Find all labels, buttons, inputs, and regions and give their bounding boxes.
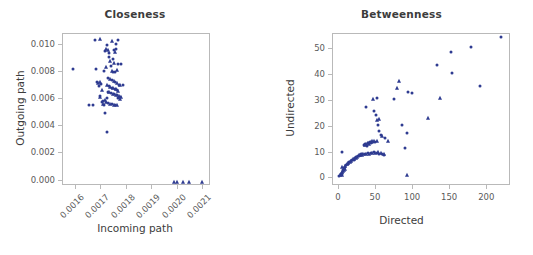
x-tick	[486, 185, 487, 189]
data-point	[98, 94, 101, 97]
data-point	[382, 154, 385, 157]
y-axis-label-betweenness: Undirected	[284, 68, 296, 148]
data-point	[365, 105, 368, 108]
data-point	[115, 103, 119, 107]
data-point	[103, 104, 106, 107]
data-point	[100, 88, 104, 92]
y-tick-label: 50	[314, 43, 325, 53]
data-point	[500, 36, 503, 39]
data-point	[71, 67, 74, 70]
data-point	[405, 131, 408, 134]
y-tick-label: 0.008	[31, 66, 55, 76]
x-axis-label-betweenness: Directed	[270, 214, 533, 226]
data-point	[386, 139, 390, 143]
data-point	[411, 92, 414, 95]
plot-area-betweenness: 01020304050050100150200	[332, 33, 510, 185]
y-tick-label: 20	[314, 121, 325, 131]
x-tick	[151, 185, 152, 189]
x-axis-label-closeness: Incoming path	[0, 222, 270, 234]
data-point	[397, 79, 401, 83]
y-tick	[58, 71, 62, 72]
data-point	[99, 83, 102, 86]
x-tick	[177, 185, 178, 189]
x-tick	[126, 185, 127, 189]
data-point	[175, 180, 179, 184]
y-tick	[328, 48, 332, 49]
data-point	[375, 139, 379, 143]
panel-closeness: Closeness 0.0000.0020.0040.0060.0080.010…	[0, 0, 270, 255]
x-tick	[449, 185, 450, 189]
data-point	[106, 47, 110, 51]
data-point	[116, 38, 119, 41]
plot-frame	[332, 33, 510, 185]
data-point	[121, 83, 124, 86]
data-point	[87, 104, 90, 107]
y-tick-label: 0.000	[31, 175, 55, 185]
data-point	[107, 52, 110, 55]
y-tick	[328, 74, 332, 75]
data-point	[187, 180, 191, 184]
data-point	[405, 172, 409, 176]
x-tick-label: 0.0018	[109, 192, 137, 220]
y-tick-label: 0.010	[31, 39, 55, 49]
x-tick	[202, 185, 203, 189]
y-tick-label: 10	[314, 147, 325, 157]
y-tick	[328, 100, 332, 101]
data-point	[451, 72, 454, 75]
data-point	[340, 151, 343, 154]
y-tick-label: 40	[314, 69, 325, 79]
panel-betweenness: Betweenness 01020304050050100150200 Dire…	[270, 0, 533, 255]
data-point	[118, 96, 122, 100]
data-point	[479, 84, 482, 87]
y-tick	[58, 44, 62, 45]
data-point	[120, 63, 123, 66]
data-point	[438, 96, 442, 100]
data-point	[393, 98, 396, 101]
data-point	[93, 38, 96, 41]
data-point	[94, 68, 97, 71]
y-tick	[328, 177, 332, 178]
data-point	[373, 109, 376, 112]
data-point	[92, 104, 95, 107]
data-point	[403, 146, 406, 149]
data-point	[98, 37, 102, 41]
data-point	[104, 112, 107, 115]
x-tick-label: 0.0021	[185, 192, 213, 220]
y-tick-label: 0.002	[31, 147, 55, 157]
data-point	[110, 39, 114, 43]
data-point	[426, 115, 430, 119]
chart-title-closeness: Closeness	[0, 8, 270, 20]
y-tick	[328, 152, 332, 153]
x-tick-label: 0	[335, 192, 340, 202]
data-point	[407, 90, 410, 93]
scatter-plot-figure: Closeness 0.0000.0020.0040.0060.0080.010…	[0, 0, 533, 255]
x-tick	[338, 185, 339, 189]
data-point	[400, 123, 403, 126]
x-tick	[412, 185, 413, 189]
y-tick	[58, 152, 62, 153]
y-tick	[328, 126, 332, 127]
data-point	[114, 42, 117, 45]
x-tick	[75, 185, 76, 189]
x-tick-label: 100	[404, 192, 420, 202]
data-point	[112, 61, 116, 65]
data-point	[449, 51, 452, 54]
plot-area-closeness: 0.0000.0020.0040.0060.0080.0100.00160.00…	[62, 33, 210, 185]
x-tick-label: 0.0017	[83, 192, 111, 220]
y-tick-label: 0.004	[31, 120, 55, 130]
x-tick-label: 200	[478, 192, 494, 202]
data-point	[115, 48, 118, 51]
x-tick-label: 150	[441, 192, 457, 202]
y-tick-label: 0.006	[31, 93, 55, 103]
data-point	[106, 130, 109, 133]
data-point	[436, 64, 439, 67]
x-tick	[375, 185, 376, 189]
data-point	[375, 97, 378, 100]
data-point	[470, 45, 473, 48]
y-tick-label: 0	[320, 172, 325, 182]
y-tick-label: 30	[314, 95, 325, 105]
x-tick-label: 0.0016	[58, 192, 86, 220]
x-tick-label: 0.0020	[160, 192, 188, 220]
data-point	[104, 65, 108, 69]
y-tick	[58, 180, 62, 181]
